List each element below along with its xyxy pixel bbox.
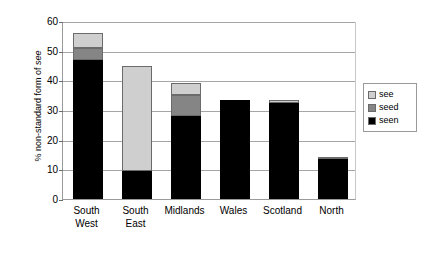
bar-north bbox=[318, 157, 348, 199]
y-axis-tickmark bbox=[59, 111, 63, 112]
legend-label-see: see bbox=[379, 90, 394, 99]
bar-segment-see bbox=[122, 66, 152, 171]
bar-segment-see bbox=[269, 100, 299, 103]
chart-legend: seeseedseen bbox=[363, 83, 417, 132]
bar-scotland bbox=[269, 100, 299, 199]
bar-segment-see bbox=[73, 33, 103, 48]
y-axis-tickmark bbox=[59, 200, 63, 201]
y-axis-tick-label: 60 bbox=[34, 17, 58, 27]
bar-segment-seed bbox=[171, 95, 201, 116]
bar-segment-seen bbox=[318, 159, 348, 199]
plot-area bbox=[62, 22, 356, 200]
bar-segment-see bbox=[171, 83, 201, 95]
gridline bbox=[63, 52, 355, 53]
gridline bbox=[63, 81, 355, 82]
y-axis-tick-label: 40 bbox=[34, 76, 58, 86]
legend-swatch-seed bbox=[368, 104, 376, 112]
y-axis-tick-label: 30 bbox=[34, 106, 58, 116]
legend-swatch-seen bbox=[368, 117, 376, 125]
y-axis-tickmark bbox=[59, 81, 63, 82]
legend-label-seed: seed bbox=[379, 103, 399, 112]
bar-segment-seen bbox=[220, 100, 250, 199]
x-axis-tick-labels: SouthWestSouthEastMidlandsWalesScotlandN… bbox=[62, 204, 356, 248]
x-axis-label-north: North bbox=[299, 204, 365, 217]
bar-midlands bbox=[171, 83, 201, 199]
bar-chart: % non-standard form of see 0102030405060… bbox=[0, 0, 424, 256]
legend-item-see: see bbox=[368, 88, 413, 101]
y-axis-tick-label: 10 bbox=[34, 165, 58, 175]
bar-wales bbox=[220, 100, 250, 199]
bar-segment-see bbox=[318, 157, 348, 159]
bar-south-east bbox=[122, 66, 152, 200]
bar-segment-seen bbox=[122, 171, 152, 199]
y-axis-tickmark bbox=[59, 170, 63, 171]
y-axis-tickmark bbox=[59, 22, 63, 23]
y-axis-tick-label: 50 bbox=[34, 47, 58, 57]
y-axis-tickmark bbox=[59, 141, 63, 142]
gridline bbox=[63, 170, 355, 171]
y-axis-tickmark bbox=[59, 52, 63, 53]
bar-segment-seen bbox=[73, 60, 103, 199]
bar-south-west bbox=[73, 33, 103, 199]
x-axis-label-line: North bbox=[299, 204, 365, 217]
gridline bbox=[63, 111, 355, 112]
bar-segment-seen bbox=[269, 103, 299, 199]
x-axis-label-line: East bbox=[103, 217, 169, 230]
gridline bbox=[63, 22, 355, 23]
legend-item-seed: seed bbox=[368, 101, 413, 114]
gridline bbox=[63, 141, 355, 142]
y-axis-tick-label: 20 bbox=[34, 136, 58, 146]
bar-segment-seen bbox=[171, 116, 201, 199]
legend-label-seen: seen bbox=[379, 116, 399, 125]
legend-swatch-see bbox=[368, 91, 376, 99]
legend-item-seen: seen bbox=[368, 114, 413, 127]
bar-segment-seed bbox=[73, 48, 103, 60]
